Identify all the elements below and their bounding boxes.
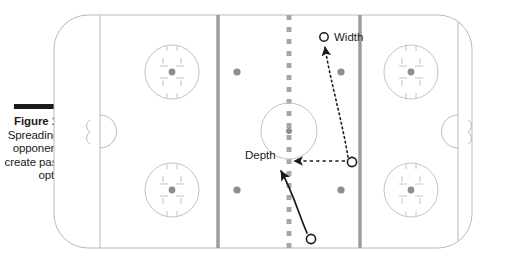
width-label: Width <box>334 31 363 43</box>
depth-label: Depth <box>245 149 276 161</box>
figure-page: Figure 10-2: Spreading out opponents to … <box>0 0 526 263</box>
player-marker-mid-right[interactable] <box>347 157 356 166</box>
rink-diagram: Width Depth <box>0 0 526 263</box>
player-marker-top-right[interactable] <box>320 33 328 41</box>
player-marker-bottom-center[interactable] <box>306 234 315 243</box>
